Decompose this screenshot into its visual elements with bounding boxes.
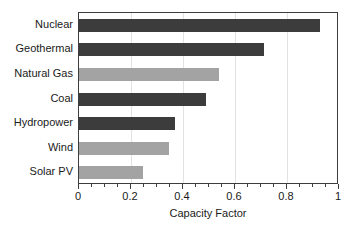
x-tick-label-0: 0 bbox=[75, 190, 81, 202]
x-tick-label-0.8: 0.8 bbox=[278, 190, 293, 202]
x-tick-major bbox=[234, 184, 235, 189]
capacity-factor-bar-chart: NuclearGeothermalNatural GasCoalHydropow… bbox=[0, 0, 354, 230]
x-tick-minor bbox=[325, 184, 326, 187]
y-label-nuclear: Nuclear bbox=[0, 18, 73, 31]
x-tick-minor bbox=[169, 184, 170, 187]
x-tick-major bbox=[182, 184, 183, 189]
y-label-geothermal: Geothermal bbox=[0, 42, 73, 55]
x-tick-label-1: 1 bbox=[335, 190, 341, 202]
x-axis-title: Capacity Factor bbox=[78, 207, 338, 219]
y-label-coal: Coal bbox=[0, 92, 73, 105]
y-label-natural-gas: Natural Gas bbox=[0, 67, 73, 80]
x-tick-minor bbox=[195, 184, 196, 187]
y-label-wind: Wind bbox=[0, 141, 73, 154]
x-tick-minor bbox=[104, 184, 105, 187]
x-tick-minor bbox=[143, 184, 144, 187]
x-tick-label-0.4: 0.4 bbox=[174, 190, 189, 202]
x-tick-minor bbox=[221, 184, 222, 187]
x-tick-minor bbox=[208, 184, 209, 187]
x-tick-label-0.2: 0.2 bbox=[122, 190, 137, 202]
x-tick-label-0.6: 0.6 bbox=[226, 190, 241, 202]
x-tick-minor bbox=[260, 184, 261, 187]
x-tick-major bbox=[338, 184, 339, 189]
x-tick-minor bbox=[312, 184, 313, 187]
y-label-solar-pv: Solar PV bbox=[0, 165, 73, 178]
y-label-hydropower: Hydropower bbox=[0, 116, 73, 129]
x-tick-major bbox=[286, 184, 287, 189]
x-tick-minor bbox=[273, 184, 274, 187]
x-tick-minor bbox=[299, 184, 300, 187]
y-axis-category-labels: NuclearGeothermalNatural GasCoalHydropow… bbox=[0, 12, 354, 184]
x-tick-minor bbox=[117, 184, 118, 187]
x-tick-minor bbox=[156, 184, 157, 187]
x-tick-major bbox=[78, 184, 79, 189]
x-axis-tick-labels: 00.20.40.60.81 bbox=[0, 190, 354, 204]
x-tick-minor bbox=[247, 184, 248, 187]
x-tick-major bbox=[130, 184, 131, 189]
x-tick-minor bbox=[91, 184, 92, 187]
